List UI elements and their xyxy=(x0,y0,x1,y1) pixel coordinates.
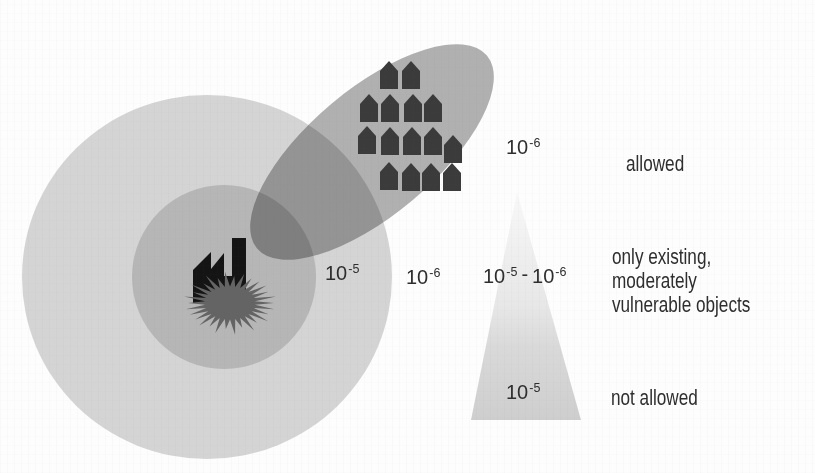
label-exponent: -6 xyxy=(555,265,566,279)
map-contour-label-1e-6: 10-6 xyxy=(406,267,440,287)
legend-text-line: only existing, xyxy=(612,245,750,269)
label-base: 10 xyxy=(506,136,528,158)
legend-text-line: vulnerable objects xyxy=(612,293,750,317)
legend-text-only-existing: only existing, moderately vulnerable obj… xyxy=(612,245,750,317)
label-base: 10 xyxy=(532,265,554,287)
legend-top-risk-label: 10-6 xyxy=(506,137,540,157)
label-exponent: -5 xyxy=(529,381,540,395)
label-base: 10 xyxy=(483,265,505,287)
label-separator: - xyxy=(521,263,528,285)
label-exponent: -6 xyxy=(529,136,540,150)
legend-text-not-allowed: not allowed xyxy=(611,387,698,409)
legend-range-risk-label: 10-5-10-6 xyxy=(483,266,566,286)
label-exponent: -6 xyxy=(429,266,440,280)
risk-zoning-diagram: 10-5 10-6 10-6 10-5-10-6 10-5 allowed on… xyxy=(0,0,815,473)
label-base: 10 xyxy=(406,266,428,288)
legend-text-line: moderately xyxy=(612,269,750,293)
label-base: 10 xyxy=(506,381,528,403)
legend-text-allowed: allowed xyxy=(626,153,684,175)
label-base: 10 xyxy=(325,262,347,284)
map-contour-label-1e-5: 10-5 xyxy=(325,263,359,283)
label-exponent: -5 xyxy=(348,262,359,276)
legend-bottom-risk-label: 10-5 xyxy=(506,382,540,402)
label-exponent: -5 xyxy=(506,265,517,279)
